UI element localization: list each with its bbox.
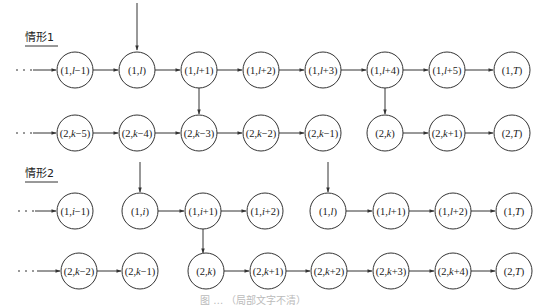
- svg-text:(2,k−5): (2,k−5): [60, 128, 91, 140]
- node: (2,k−2): [61, 253, 97, 289]
- svg-text:(1,i−1): (1,i−1): [61, 206, 90, 218]
- svg-text:(2,k): (2,k): [375, 128, 395, 140]
- svg-text:(1,i+2): (1,i+2): [251, 206, 280, 218]
- svg-text:(1,l+3): (1,l+3): [309, 65, 338, 77]
- svg-text:(2,k+1): (2,k+1): [432, 128, 463, 140]
- node: (2,k−1): [305, 115, 341, 151]
- node-terminal: (2,T): [496, 253, 532, 289]
- case2-label: 情形2: [25, 167, 54, 180]
- node: (1,l): [310, 193, 346, 229]
- svg-text:(1,l+2): (1,l+2): [439, 206, 468, 218]
- svg-text:(1,l+1): (1,l+1): [185, 65, 214, 77]
- node: (2,k−3): [181, 115, 217, 151]
- svg-text:(1,l+4): (1,l+4): [371, 65, 400, 77]
- case2-group: 情形2 (1,i−1) (1,i) (1,i+1) (1,i+2) (1,l) …: [18, 162, 532, 289]
- node: (2,k−4): [119, 115, 155, 151]
- node: (2,k): [367, 115, 403, 151]
- node-terminal: (2,T): [494, 115, 530, 151]
- node: (1,i−1): [57, 193, 93, 229]
- node: (1,l+2): [243, 52, 279, 88]
- figure-caption-fragment: 图 … （局部文字不清）: [200, 294, 306, 306]
- node: (2,k+1): [429, 115, 465, 151]
- svg-text:(2,k+2): (2,k+2): [314, 266, 345, 278]
- node: (1,l+1): [373, 193, 409, 229]
- case1-label: 情形1: [25, 31, 54, 44]
- svg-text:(1,i): (1,i): [131, 206, 149, 218]
- node: (1,i+1): [185, 193, 221, 229]
- svg-text:(1,l−1): (1,l−1): [61, 65, 90, 77]
- svg-text:(1,l+1): (1,l+1): [377, 206, 406, 218]
- svg-text:(2,k−1): (2,k−1): [308, 128, 339, 140]
- node: (1,l+5): [429, 52, 465, 88]
- svg-text:(1,l+5): (1,l+5): [433, 65, 462, 77]
- node: (2,k): [188, 253, 224, 289]
- node: (2,k+1): [250, 253, 286, 289]
- svg-text:(2,k+1): (2,k+1): [253, 266, 284, 278]
- node: (2,k+3): [373, 253, 409, 289]
- node: (2,k−2): [243, 115, 279, 151]
- node: (1,l+3): [305, 52, 341, 88]
- node: (1,l+2): [435, 193, 471, 229]
- svg-text:(2,k−2): (2,k−2): [246, 128, 277, 140]
- svg-text:(1,i+1): (1,i+1): [189, 206, 218, 218]
- svg-text:(2,k+4): (2,k+4): [438, 266, 469, 278]
- state-transition-diagram: 情形1 (1,l−1) (1,l) (1,l+1) (1,l+2) (1,l+3: [0, 0, 550, 306]
- svg-text:(2,k−3): (2,k−3): [184, 128, 215, 140]
- node-terminal: (1,T): [494, 52, 530, 88]
- svg-text:(1,l): (1,l): [128, 65, 146, 77]
- node: (1,l+4): [367, 52, 403, 88]
- node: (1,l+1): [181, 52, 217, 88]
- node: (1,i+2): [247, 193, 283, 229]
- node-terminal: (1,T): [496, 193, 532, 229]
- svg-text:(1,T): (1,T): [504, 206, 525, 218]
- node: (1,l): [119, 52, 155, 88]
- svg-text:(2,T): (2,T): [504, 266, 525, 278]
- node: (1,i): [122, 193, 158, 229]
- node: (2,k−1): [122, 253, 158, 289]
- svg-text:(2,k−2): (2,k−2): [64, 266, 95, 278]
- svg-text:(2,k−1): (2,k−1): [125, 266, 156, 278]
- svg-text:(1,l+2): (1,l+2): [247, 65, 276, 77]
- case1-group: 情形1 (1,l−1) (1,l) (1,l+1) (1,l+2) (1,l+3: [16, 3, 530, 151]
- node: (1,l−1): [57, 52, 93, 88]
- svg-text:(2,T): (2,T): [502, 128, 523, 140]
- svg-text:(1,T): (1,T): [502, 65, 523, 77]
- svg-text:(2,k−4): (2,k−4): [122, 128, 153, 140]
- svg-text:(1,l): (1,l): [319, 206, 337, 218]
- node: (2,k+4): [435, 253, 471, 289]
- svg-text:(2,k+3): (2,k+3): [376, 266, 407, 278]
- node: (2,k−5): [57, 115, 93, 151]
- svg-text:(2,k): (2,k): [196, 266, 216, 278]
- node: (2,k+2): [311, 253, 347, 289]
